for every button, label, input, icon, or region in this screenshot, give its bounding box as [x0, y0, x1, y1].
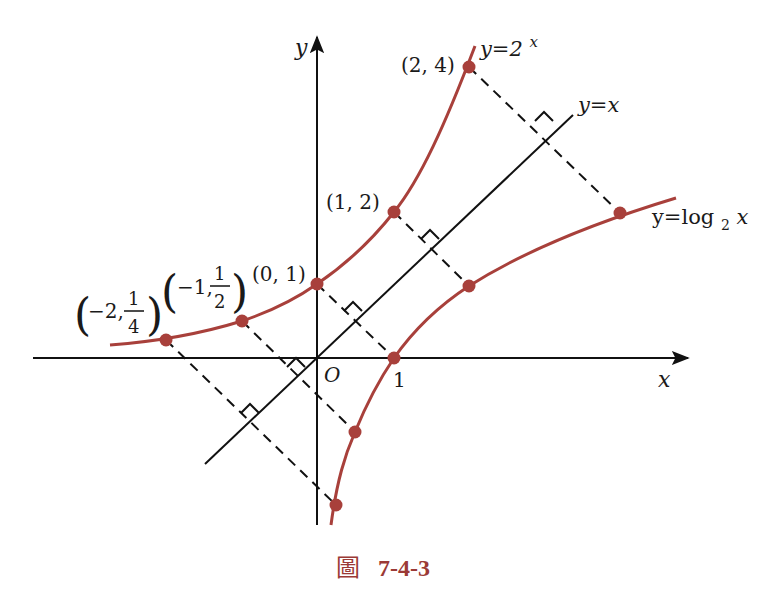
point-label-neg2-quarter: ( −2, 1 4 ) — [74, 288, 163, 340]
caption-prefix: 圖 — [336, 555, 360, 581]
caption-number: 7-4-3 — [378, 555, 430, 581]
svg-text:1: 1 — [214, 263, 225, 284]
svg-text:): ) — [231, 266, 248, 317]
log-curve — [331, 198, 676, 525]
svg-text:−2,: −2, — [88, 299, 124, 323]
log-label-tail: x — [737, 205, 749, 229]
y-axis-label: y — [294, 35, 308, 60]
log-curve-label: y=log 2 x — [651, 205, 749, 235]
log-label-main: y=log — [651, 205, 714, 229]
exp-curve-label: y=2 x — [479, 33, 539, 61]
point-label-0-1: (0, 1) — [252, 262, 306, 286]
log-label-sub: 2 — [721, 217, 730, 233]
origin-label: O — [324, 363, 340, 387]
svg-text:(: ( — [161, 266, 178, 317]
exp-label-main: y=2 — [479, 37, 523, 61]
exp-label-sup: x — [530, 33, 539, 51]
point-label-2-4: (2, 4) — [401, 53, 455, 77]
svg-text:1: 1 — [128, 288, 139, 309]
point-label-1-2: (1, 2) — [326, 190, 380, 214]
identity-line — [205, 115, 573, 464]
svg-text:2: 2 — [214, 291, 225, 312]
svg-text:−1,: −1, — [177, 275, 213, 299]
diagram-canvas: y x O 1 y=2 x y=x y=log 2 x (2, 4) (1, 2… — [0, 0, 766, 601]
point-label-neg1-half: ( −1, 1 2 ) — [161, 263, 248, 317]
figure-caption: 圖 7-4-3 — [0, 548, 766, 583]
x-axis-label: x — [658, 367, 671, 392]
svg-text:): ) — [146, 289, 163, 340]
tick-one-label: 1 — [393, 368, 406, 392]
identity-label: y=x — [577, 93, 619, 117]
svg-text:4: 4 — [128, 316, 139, 337]
